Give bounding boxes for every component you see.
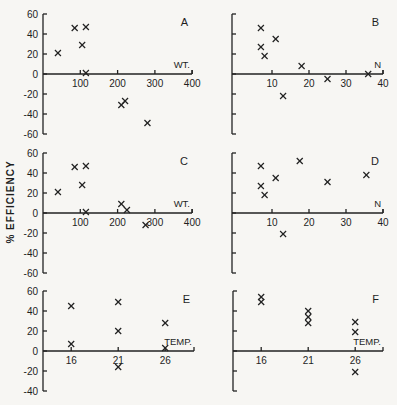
y-tick-label: 60 — [27, 286, 39, 297]
panel-d: 10203040ND — [232, 153, 389, 273]
data-point-x-marker — [280, 231, 286, 237]
y-tick-label: 40 — [27, 29, 39, 40]
x-tick-label: 30 — [340, 217, 352, 228]
panel-letter: A — [181, 16, 189, 28]
x-tick-label: 200 — [109, 217, 126, 228]
y-tick-label: -20 — [24, 366, 39, 377]
data-point-x-marker — [83, 209, 89, 215]
data-point-x-marker — [79, 42, 85, 48]
data-point-x-marker — [258, 25, 264, 31]
data-point-x-marker — [352, 319, 358, 325]
data-point-x-marker — [55, 189, 61, 195]
data-point-x-marker — [83, 24, 89, 30]
y-tick-label: -40 — [24, 109, 39, 120]
panel-letter: F — [372, 293, 379, 305]
y-tick-label: 0 — [32, 208, 38, 219]
panel-b: 10203040NB — [232, 14, 389, 134]
scatter-figure: % EFFICIENCY 6040200-20-40-6010020030040… — [0, 0, 397, 405]
y-tick-label: 0 — [32, 69, 38, 80]
y-axis-label: % EFFICIENCY — [5, 160, 16, 243]
y-tick-label: 20 — [27, 326, 39, 337]
x-tick-label: 400 — [184, 78, 201, 89]
panel-letter: C — [180, 155, 188, 167]
x-tick-label: 10 — [266, 217, 278, 228]
y-tick-label: 0 — [32, 346, 38, 357]
x-tick-label: 300 — [147, 217, 164, 228]
figure: % EFFICIENCY 6040200-20-40-6010020030040… — [0, 0, 397, 405]
data-point-x-marker — [124, 207, 130, 213]
data-point-x-marker — [258, 299, 264, 305]
x-tick-label: 20 — [303, 78, 315, 89]
data-point-x-marker — [72, 164, 78, 170]
panels: 6040200-20-40-60100200300400WT.A10203040… — [24, 9, 389, 397]
data-point-x-marker — [352, 329, 358, 335]
data-point-x-marker — [325, 179, 331, 185]
data-point-x-marker — [122, 98, 128, 104]
data-point-x-marker — [352, 369, 358, 375]
panel-e: 6040200-20-40162126TEMP.E — [24, 286, 194, 397]
x-tick-label: 26 — [350, 355, 362, 366]
y-tick-label: -20 — [24, 228, 39, 239]
panel-f: 162126TEMP.F — [233, 291, 383, 391]
data-point-x-marker — [162, 320, 168, 326]
x-axis-label: TEMP. — [353, 336, 381, 347]
data-point-x-marker — [280, 93, 286, 99]
x-tick-label: 20 — [303, 217, 315, 228]
x-tick-label: 10 — [266, 78, 278, 89]
x-tick-label: 21 — [303, 355, 315, 366]
x-axis-label: N — [374, 59, 381, 70]
x-tick-label: 100 — [72, 217, 89, 228]
y-tick-label: -60 — [24, 129, 39, 140]
data-point-x-marker — [115, 299, 121, 305]
x-tick-label: 300 — [147, 78, 164, 89]
x-axis-label: WT. — [174, 198, 190, 209]
data-point-x-marker — [299, 63, 305, 69]
panel-c: 6040200-20-40-60100200300400WT.C — [24, 148, 201, 279]
y-tick-label: 60 — [27, 9, 39, 20]
data-point-x-marker — [258, 183, 264, 189]
x-tick-label: 400 — [184, 217, 201, 228]
x-tick-label: 21 — [113, 355, 125, 366]
data-point-x-marker — [72, 25, 78, 31]
panel-letter: D — [371, 155, 379, 167]
y-tick-label: -40 — [24, 386, 39, 397]
data-point-x-marker — [305, 314, 311, 320]
data-point-x-marker — [273, 175, 279, 181]
data-point-x-marker — [144, 120, 150, 126]
data-point-x-marker — [258, 44, 264, 50]
data-point-x-marker — [83, 70, 89, 76]
panel-letter: E — [183, 293, 190, 305]
y-tick-label: -20 — [24, 89, 39, 100]
data-point-x-marker — [305, 308, 311, 314]
x-tick-label: 26 — [160, 355, 172, 366]
panel-letter: B — [372, 16, 379, 28]
data-point-x-marker — [305, 320, 311, 326]
x-tick-label: 200 — [109, 78, 126, 89]
y-tick-label: -40 — [24, 248, 39, 259]
panel-a: 6040200-20-40-60100200300400WT.A — [24, 9, 201, 140]
x-tick-label: 16 — [256, 355, 268, 366]
y-tick-label: 40 — [27, 306, 39, 317]
data-point-x-marker — [68, 303, 74, 309]
data-point-x-marker — [118, 201, 124, 207]
data-point-x-marker — [262, 192, 268, 198]
x-tick-label: 30 — [340, 78, 352, 89]
data-point-x-marker — [363, 172, 369, 178]
data-point-x-marker — [297, 158, 303, 164]
data-point-x-marker — [273, 36, 279, 42]
data-point-x-marker — [325, 76, 331, 82]
x-tick-label: 40 — [377, 78, 389, 89]
data-point-x-marker — [115, 328, 121, 334]
x-tick-label: 100 — [72, 78, 89, 89]
data-point-x-marker — [79, 182, 85, 188]
data-point-x-marker — [262, 53, 268, 59]
x-tick-label: 40 — [377, 217, 389, 228]
x-tick-label: 16 — [66, 355, 78, 366]
data-point-x-marker — [258, 163, 264, 169]
x-axis-label: N — [374, 198, 381, 209]
x-axis-label: WT. — [174, 59, 190, 70]
data-point-x-marker — [83, 163, 89, 169]
y-tick-label: 40 — [27, 168, 39, 179]
y-tick-label: 20 — [27, 49, 39, 60]
data-point-x-marker — [68, 341, 74, 347]
